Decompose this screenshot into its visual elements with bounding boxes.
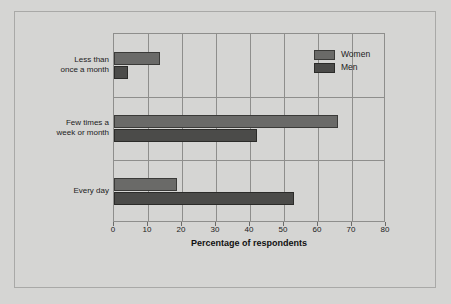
y-category-label-every-day: Every day [46, 186, 109, 196]
legend-item-men: Men [314, 62, 384, 75]
x-tick-label: 20 [166, 225, 196, 234]
bar-men-cat1 [114, 129, 257, 142]
bar-men-cat2 [114, 192, 294, 205]
legend-label-women: Women [341, 49, 370, 59]
y-category-label-line: Less than [46, 55, 109, 65]
legend-label-men: Men [341, 62, 358, 72]
y-category-label-line: Few times a [46, 118, 109, 128]
bar-women-cat1 [114, 115, 338, 128]
category-separator [114, 160, 384, 161]
x-tick-label: 30 [200, 225, 230, 234]
x-tick-label: 60 [302, 225, 332, 234]
x-tick-label: 10 [132, 225, 162, 234]
x-tick-label: 40 [234, 225, 264, 234]
bar-women-cat0 [114, 52, 160, 65]
legend-swatch-men-icon [314, 63, 335, 73]
legend-swatch-women-icon [314, 50, 335, 60]
y-category-label-line: week or month [46, 128, 109, 138]
x-tick-label: 70 [336, 225, 366, 234]
bar-women-cat2 [114, 178, 177, 191]
x-tick-label: 50 [268, 225, 298, 234]
y-category-label-line: once a month [46, 65, 109, 75]
x-axis-title: Percentage of respondents [113, 238, 385, 248]
bar-men-cat0 [114, 66, 128, 79]
x-tick-label: 0 [98, 225, 128, 234]
category-separator [114, 97, 384, 98]
chart-legend: Women Men [314, 49, 384, 75]
y-category-label-line: Every day [46, 186, 109, 196]
y-category-label-less-than-once-a-month: Less thanonce a month [46, 55, 109, 75]
chart-figure: How often people think about sex Less th… [0, 0, 451, 304]
y-category-label-few-times-a-week-or-month: Few times aweek or month [46, 118, 109, 138]
legend-item-women: Women [314, 49, 384, 62]
x-tick-label: 80 [370, 225, 400, 234]
